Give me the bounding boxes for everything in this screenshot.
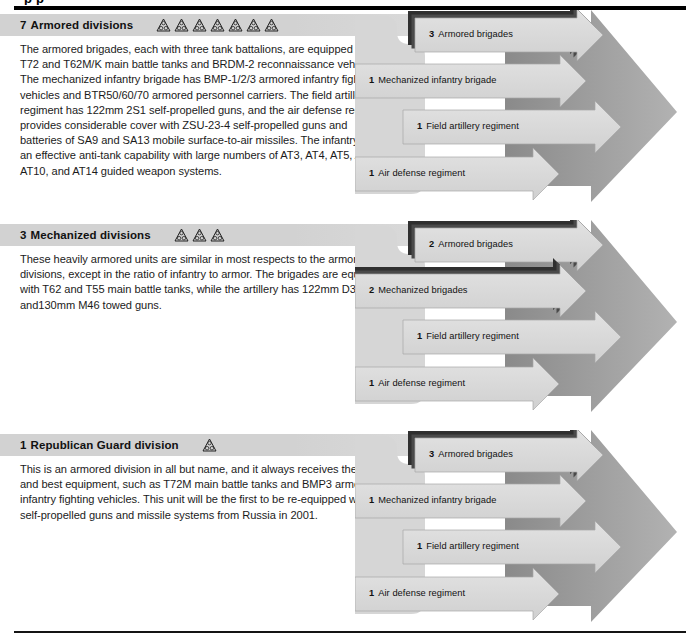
unit-quantity: 1 xyxy=(369,75,374,85)
division-triangle-icon xyxy=(210,228,225,242)
unit-quantity: 3 xyxy=(429,29,434,39)
unit-quantity: 1 xyxy=(369,588,374,598)
page-root: p p 7Armored divisionsThe armored brigad… xyxy=(0,0,695,642)
division-triangle-icon xyxy=(192,18,207,32)
unit-arrow-label: 3Armored brigades xyxy=(429,29,513,39)
unit-arrow-label: 1Mechanized infantry brigade xyxy=(369,75,496,85)
section-heading: 3Mechanized divisions xyxy=(20,224,225,246)
unit-arrow-label: 1Air defense regiment xyxy=(369,588,465,598)
section-count: 7 xyxy=(20,19,27,31)
section-mechanized: 3Mechanized divisionsThese heavily armor… xyxy=(0,224,695,416)
section-republican-guard: 1Republican Guard divisionThis is an arm… xyxy=(0,434,695,626)
unit-arrow-label: 1Field artillery regiment xyxy=(417,541,519,551)
section-diagram: 3Armored brigades1Mechanized infantry br… xyxy=(355,10,695,210)
unit-name: Mechanized infantry brigade xyxy=(378,75,496,85)
section-diagram: 2Armored brigades2Mechanized brigades1Fi… xyxy=(355,220,695,420)
unit-quantity: 1 xyxy=(369,168,374,178)
division-triangle-icon xyxy=(192,228,207,242)
division-icon-group xyxy=(156,18,279,32)
unit-quantity: 3 xyxy=(429,449,434,459)
unit-name: Air defense regiment xyxy=(378,378,465,388)
bottom-rule xyxy=(14,631,686,633)
unit-arrow-label: 2Armored brigades xyxy=(429,239,513,249)
section-body-text: The armored brigades, each with three ta… xyxy=(20,42,392,179)
section-heading: 1Republican Guard division xyxy=(20,434,217,456)
division-triangle-icon xyxy=(202,438,217,452)
section-count: 1 xyxy=(20,439,27,451)
unit-arrow-label: 1Air defense regiment xyxy=(369,378,465,388)
division-triangle-icon xyxy=(246,18,261,32)
unit-name: Armored brigades xyxy=(438,29,513,39)
section-title: 1Republican Guard division xyxy=(20,439,179,451)
section-count: 3 xyxy=(20,229,27,241)
section-body-text: This is an armored division in all but n… xyxy=(20,462,392,523)
unit-name: Mechanized infantry brigade xyxy=(378,495,496,505)
unit-quantity: 1 xyxy=(369,495,374,505)
section-heading: 7Armored divisions xyxy=(20,14,279,36)
section-title: 7Armored divisions xyxy=(20,19,133,31)
unit-flow-diagram xyxy=(355,430,695,634)
section-title-text: Mechanized divisions xyxy=(31,229,151,241)
section-body-text: These heavily armored units are similar … xyxy=(20,252,392,313)
section-armored: 7Armored divisionsThe armored brigades, … xyxy=(0,14,695,206)
division-triangle-icon xyxy=(210,18,225,32)
unit-arrow-label: 1Mechanized infantry brigade xyxy=(369,495,496,505)
unit-arrow-label: 1Field artillery regiment xyxy=(417,121,519,131)
unit-arrow-label: 3Armored brigades xyxy=(429,449,513,459)
unit-name: Mechanized brigades xyxy=(378,285,467,295)
section-title: 3Mechanized divisions xyxy=(20,229,151,241)
division-icon-group xyxy=(174,228,225,242)
section-diagram: 3Armored brigades1Mechanized infantry br… xyxy=(355,430,695,630)
division-triangle-icon xyxy=(228,18,243,32)
unit-name: Field artillery regiment xyxy=(426,121,519,131)
section-title-text: Armored divisions xyxy=(31,19,134,31)
division-icon-group xyxy=(202,438,217,452)
unit-quantity: 2 xyxy=(369,285,374,295)
unit-quantity: 1 xyxy=(417,331,422,341)
unit-name: Armored brigades xyxy=(438,239,513,249)
unit-arrow-label: 1Field artillery regiment xyxy=(417,331,519,341)
unit-name: Field artillery regiment xyxy=(426,331,519,341)
section-title-text: Republican Guard division xyxy=(31,439,179,451)
unit-quantity: 1 xyxy=(369,378,374,388)
unit-flow-diagram xyxy=(355,10,695,214)
clipped-header-text: p p xyxy=(24,0,44,5)
unit-quantity: 1 xyxy=(417,541,422,551)
unit-quantity: 2 xyxy=(429,239,434,249)
division-triangle-icon xyxy=(174,18,189,32)
division-triangle-icon xyxy=(156,18,171,32)
unit-flow-diagram xyxy=(355,220,695,424)
unit-name: Armored brigades xyxy=(438,449,513,459)
unit-name: Air defense regiment xyxy=(378,588,465,598)
unit-name: Field artillery regiment xyxy=(426,541,519,551)
division-triangle-icon xyxy=(174,228,189,242)
unit-arrow-label: 2Mechanized brigades xyxy=(369,285,468,295)
unit-name: Air defense regiment xyxy=(378,168,465,178)
division-triangle-icon xyxy=(264,18,279,32)
unit-arrow-label: 1Air defense regiment xyxy=(369,168,465,178)
unit-quantity: 1 xyxy=(417,121,422,131)
